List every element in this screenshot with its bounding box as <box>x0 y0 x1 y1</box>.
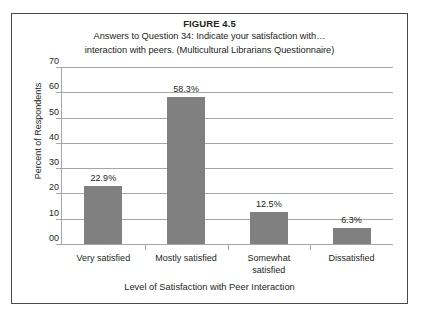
gridline <box>62 118 393 119</box>
gridline <box>62 143 393 144</box>
y-axis-tick-mark <box>56 219 61 220</box>
y-axis-tick-label: 10 <box>29 208 59 218</box>
x-axis-tick-mark <box>228 245 229 250</box>
bar[interactable] <box>167 97 205 244</box>
bar[interactable] <box>84 186 122 244</box>
y-axis-tick-mark <box>56 92 61 93</box>
y-axis-tick-label: 40 <box>29 132 59 142</box>
y-axis-tick-label: 30 <box>29 157 59 167</box>
x-axis-tick-mark <box>145 245 146 250</box>
x-axis-category-label-line: Dissatisfied <box>302 253 401 265</box>
y-axis-tick-label: 00 <box>29 233 59 243</box>
y-axis-tick-mark <box>56 168 61 169</box>
y-axis-tick-label: 50 <box>29 107 59 117</box>
x-axis-category-label: Dissatisfied <box>302 253 401 265</box>
gridline <box>62 168 393 169</box>
bar-value-label: 22.9% <box>62 173 145 184</box>
x-axis-title: Level of Satisfaction with Peer Interact… <box>12 282 407 292</box>
y-axis-tick-mark <box>56 193 61 194</box>
bar-value-label: 6.3% <box>310 215 393 226</box>
y-axis-tick-labels: 0010203040506070 <box>29 61 59 238</box>
y-axis-tick-label: 20 <box>29 182 59 192</box>
y-axis-tick-mark <box>56 244 61 245</box>
x-axis-tick-mark <box>310 245 311 250</box>
x-axis-category-label-line: satisfied <box>220 265 319 277</box>
gridline <box>62 92 393 93</box>
bar-value-label: 12.5% <box>228 199 311 210</box>
bar-chart: Percent of Respondents 0010203040506070 … <box>12 14 407 303</box>
bar-value-label: 58.3% <box>145 84 228 95</box>
gridline <box>62 67 393 68</box>
y-axis-tick-mark <box>56 67 61 68</box>
figure-frame: FIGURE 4.5 Answers to Question 34: Indic… <box>11 13 408 304</box>
y-axis-tick-mark <box>56 118 61 119</box>
y-axis-tick-label: 60 <box>29 81 59 91</box>
bar[interactable] <box>333 228 371 244</box>
y-axis-tick-label: 70 <box>29 56 59 66</box>
y-axis-tick-mark <box>56 143 61 144</box>
bar[interactable] <box>250 212 288 244</box>
